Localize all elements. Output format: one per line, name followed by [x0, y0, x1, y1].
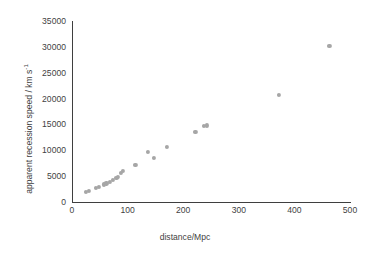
- y-tick-label: 0: [30, 197, 66, 207]
- data-point: [204, 123, 208, 127]
- data-point: [97, 185, 101, 189]
- data-point: [193, 130, 197, 134]
- data-point: [327, 44, 331, 48]
- data-point: [133, 163, 137, 167]
- y-tick-label: 30000: [30, 42, 66, 52]
- data-point: [277, 93, 281, 97]
- y-tick-label: 25000: [30, 68, 66, 78]
- data-point: [87, 189, 91, 193]
- data-point: [116, 175, 120, 179]
- y-tick-label: 35000: [30, 16, 66, 26]
- y-tick-label: 10000: [30, 145, 66, 155]
- y-tick-label: 20000: [30, 94, 66, 104]
- x-tick-label: 0: [70, 205, 75, 215]
- y-tick-label: 15000: [30, 119, 66, 129]
- data-point: [164, 145, 168, 149]
- y-axis-title-exponent: -1: [22, 64, 29, 70]
- x-tick-label: 200: [176, 205, 190, 215]
- y-tick-label: 5000: [30, 171, 66, 181]
- x-axis-title: distance/Mpc: [0, 232, 370, 242]
- data-point: [146, 150, 150, 154]
- x-tick-label: 300: [232, 205, 246, 215]
- data-point: [152, 156, 156, 160]
- scatter-chart-figure: 05000100001500020000250003000035000 0100…: [0, 0, 370, 257]
- x-tick-label: 100: [120, 205, 134, 215]
- x-tick-label: 500: [343, 205, 357, 215]
- y-axis-title: apparent recession speed / km s-1: [24, 34, 34, 224]
- x-tick-label: 400: [287, 205, 301, 215]
- data-point: [121, 169, 125, 173]
- plot-area: [72, 21, 350, 202]
- y-axis-title-text: apparent recession speed / km s: [24, 69, 34, 193]
